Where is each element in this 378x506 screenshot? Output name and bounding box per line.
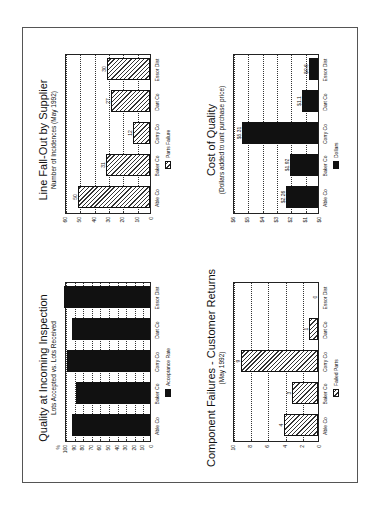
- y-tick-label: 20: [131, 445, 137, 461]
- value-label: 30: [101, 59, 107, 79]
- legend-label: Acceptance Rate: [165, 348, 171, 386]
- bar: [292, 382, 318, 404]
- y-tick-label: $0: [316, 217, 322, 233]
- value-label: 12: [127, 123, 133, 143]
- y-tick-label: 10: [139, 445, 145, 461]
- x-tick-label: Essor Dist: [322, 283, 328, 313]
- y-tick-label: 2: [299, 445, 305, 461]
- legend-label: Failed Parts: [333, 359, 339, 386]
- y-tick-label: 40: [114, 445, 120, 461]
- y-tick-label: 0: [148, 217, 154, 233]
- chart-title: Quality at Incoming Inspection: [37, 254, 49, 482]
- legend: Dollars: [333, 142, 339, 169]
- bar: [309, 318, 318, 340]
- y-tick-label: $2: [287, 217, 293, 233]
- legend-swatch: [333, 389, 339, 397]
- y-tick-label: $4: [259, 217, 265, 233]
- x-tick-label: Baker Co: [154, 151, 160, 181]
- y-tick-label: 10: [134, 217, 140, 233]
- y-tick-label: $3: [273, 217, 279, 233]
- chart-subtitle: Number of Incidences (May 1992): [50, 26, 58, 254]
- legend-label: Parts Failure: [165, 130, 171, 158]
- x-tick-label: Corry Co: [322, 119, 328, 149]
- value-label: $0.6: [303, 59, 309, 79]
- y-tick-label: $1: [302, 217, 308, 233]
- value-label: $2.26: [280, 187, 286, 207]
- y-tick-label: 40: [91, 217, 97, 233]
- chart-subtitle: (May 1992): [218, 254, 226, 482]
- x-tick-label: Baker Co: [322, 379, 328, 409]
- value-label: $1.1: [296, 91, 302, 111]
- x-tick-label: Dart Co: [322, 87, 328, 117]
- x-tick-label: Corry Co: [154, 347, 160, 377]
- bar: [67, 350, 150, 372]
- x-tick-label: Able Co: [154, 183, 160, 213]
- chart-subtitle: (Dollars added to unit purchase price): [218, 26, 226, 254]
- rotated-page: Quality at Incoming InspectionLots Accep…: [22, 27, 358, 483]
- bar: [76, 382, 150, 404]
- value-label: 1: [303, 319, 309, 339]
- value-label: $5.31: [236, 123, 242, 143]
- legend-swatch: [165, 389, 171, 397]
- plot-area: 43910: [233, 282, 319, 442]
- bar: [242, 122, 318, 144]
- x-tick-label: Dart Co: [154, 87, 160, 117]
- legend: Acceptance Rate: [165, 348, 171, 397]
- value-label: 50: [72, 187, 78, 207]
- bar: [133, 122, 150, 144]
- y-axis-label: %: [55, 445, 61, 461]
- x-tick-label: Corry Co: [154, 119, 160, 149]
- bar: [111, 90, 150, 112]
- value-label: $1.92: [284, 155, 290, 175]
- y-tick-label: 60: [62, 217, 68, 233]
- legend-swatch: [333, 161, 339, 169]
- y-tick-label: 10: [230, 445, 236, 461]
- x-tick-label: Able Co: [154, 411, 160, 441]
- bar: [241, 350, 318, 372]
- y-tick-label: 0: [148, 445, 154, 461]
- bar: [290, 154, 318, 176]
- plot-area: 5031122730: [65, 54, 151, 214]
- x-tick-label: Baker Co: [322, 151, 328, 181]
- x-tick-label: Able Co: [322, 183, 328, 213]
- value-label: 9: [235, 351, 241, 371]
- value-label: 27: [105, 91, 111, 111]
- x-tick-label: Corry Co: [322, 347, 328, 377]
- y-tick-label: 30: [122, 445, 128, 461]
- chart-title: Line Fall-Out by Supplier: [37, 26, 49, 254]
- legend-swatch: [165, 161, 171, 169]
- y-tick-label: 60: [96, 445, 102, 461]
- x-tick-label: Essor Dist: [154, 55, 160, 85]
- value-label: 0: [312, 287, 318, 307]
- x-tick-label: Essor Dist: [154, 283, 160, 313]
- chart-component-failures: Component Failures - Customer Returns(Ma…: [191, 254, 359, 482]
- value-label: 3: [286, 383, 292, 403]
- bar: [78, 186, 150, 208]
- x-tick-label: Dart Co: [154, 315, 160, 345]
- gridline: [234, 55, 235, 213]
- bar: [309, 58, 318, 80]
- bar: [302, 90, 318, 112]
- bar: [72, 318, 150, 340]
- y-tick-label: $6: [230, 217, 236, 233]
- x-tick-label: Able Co: [322, 411, 328, 441]
- bar: [72, 414, 150, 436]
- y-tick-label: 30: [105, 217, 111, 233]
- chart-quality-incoming: Quality at Incoming InspectionLots Accep…: [23, 254, 191, 482]
- y-tick-label: 8: [247, 445, 253, 461]
- legend: Failed Parts: [333, 359, 339, 397]
- chart-line-fallout: Line Fall-Out by SupplierNumber of Incid…: [23, 26, 191, 254]
- bar: [106, 154, 150, 176]
- y-tick-label: 0: [316, 445, 322, 461]
- y-tick-label: 20: [119, 217, 125, 233]
- chart-cost-of-quality: Cost of Quality(Dollars added to unit pu…: [191, 26, 359, 254]
- y-tick-label: 6: [264, 445, 270, 461]
- gridline: [66, 55, 67, 213]
- chart-title: Cost of Quality: [205, 26, 217, 254]
- value-label: 31: [100, 155, 106, 175]
- x-tick-label: Dart Co: [322, 315, 328, 345]
- y-tick-label: 50: [76, 217, 82, 233]
- legend-label: Dollars: [333, 142, 339, 158]
- y-tick-label: 70: [88, 445, 94, 461]
- bar: [107, 58, 150, 80]
